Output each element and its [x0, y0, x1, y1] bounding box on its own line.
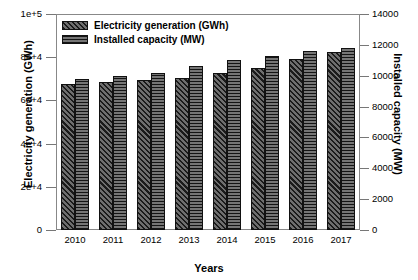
bar-electricity-generation [213, 73, 227, 230]
y-tick-label-right: 2000 [372, 193, 393, 204]
x-tick-label: 2013 [169, 234, 209, 245]
bar-electricity-generation [137, 80, 151, 230]
y-tick-label-left: 6e+4 [21, 94, 42, 105]
chart-legend: Electricity generation (GWh) Installed c… [62, 19, 228, 47]
legend-swatch-capacity [62, 35, 88, 44]
bar-electricity-generation [289, 59, 303, 230]
y-tick-label-right: 12000 [372, 39, 398, 50]
y-tick-left [46, 144, 56, 145]
legend-label-capacity: Installed capacity (MW) [94, 34, 205, 45]
legend-swatch-generation [62, 21, 88, 30]
bar-installed-capacity [227, 60, 241, 230]
y-tick-left [46, 100, 56, 101]
y-tick-label-left: 8e+4 [21, 51, 42, 62]
y-tick-label-right: 10000 [372, 70, 398, 81]
x-tick-label: 2016 [283, 234, 323, 245]
bar-group [289, 14, 317, 230]
bar-installed-capacity [189, 66, 203, 230]
bar-installed-capacity [341, 48, 355, 230]
legend-item-capacity: Installed capacity (MW) [62, 33, 228, 45]
x-tick-label: 2014 [207, 234, 247, 245]
y-tick-left [46, 14, 56, 15]
bar-electricity-generation [251, 68, 265, 230]
x-tick-label: 2010 [55, 234, 95, 245]
y-axis-right-title: Installed capacity (MW) [392, 34, 404, 194]
y-tick-right [360, 14, 369, 15]
y-tick-right [360, 168, 369, 169]
bar-electricity-generation [99, 82, 113, 230]
x-tick-label: 2015 [245, 234, 285, 245]
bar-electricity-generation [327, 52, 341, 230]
y-tick-label-right: 8000 [372, 101, 393, 112]
y-tick-left [46, 230, 56, 231]
legend-item-generation: Electricity generation (GWh) [62, 19, 228, 31]
bar-chart: Electricity generation (GWh) Installed c… [0, 0, 418, 280]
x-tick-label: 2012 [131, 234, 171, 245]
y-tick-label-right: 4000 [372, 162, 393, 173]
y-tick-label-left: 1e+5 [21, 8, 42, 19]
y-tick-left [46, 57, 56, 58]
y-tick-label-right: 0 [372, 224, 377, 235]
bar-installed-capacity [151, 73, 165, 230]
y-tick-label-right: 14000 [372, 8, 398, 19]
bar-electricity-generation [175, 78, 189, 230]
x-axis-title: Years [0, 262, 418, 274]
y-tick-label-right: 6000 [372, 131, 393, 142]
y-tick-right [360, 137, 369, 138]
y-tick-right [360, 107, 369, 108]
bar-group [327, 14, 355, 230]
bar-installed-capacity [303, 51, 317, 230]
bar-installed-capacity [113, 76, 127, 230]
x-tick-label: 2011 [93, 234, 133, 245]
x-tick-label: 2017 [321, 234, 361, 245]
y-tick-label-left: 0 [37, 224, 42, 235]
legend-label-generation: Electricity generation (GWh) [94, 20, 228, 31]
y-tick-label-left: 2e+4 [21, 181, 42, 192]
bar-installed-capacity [265, 56, 279, 230]
bar-electricity-generation [61, 84, 75, 230]
bar-installed-capacity [75, 79, 89, 230]
y-tick-right [360, 45, 369, 46]
bar-group [251, 14, 279, 230]
y-tick-left [46, 187, 56, 188]
y-tick-right [360, 230, 369, 231]
y-tick-label-left: 4e+4 [21, 138, 42, 149]
y-tick-right [360, 199, 369, 200]
y-tick-right [360, 76, 369, 77]
